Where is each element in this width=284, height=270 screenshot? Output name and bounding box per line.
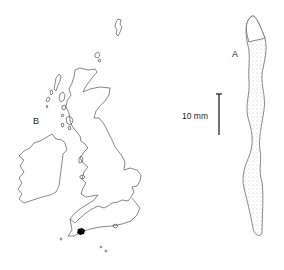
worm-specimen — [243, 16, 266, 236]
panel-b-label: B — [33, 116, 39, 126]
hebrides — [46, 74, 61, 108]
orkney-islands — [95, 52, 101, 62]
scale-bar — [216, 94, 222, 135]
worm-body — [243, 16, 266, 236]
panel-a-label: A — [232, 49, 238, 59]
worm-head-segment — [246, 16, 265, 42]
channel-island-1 — [100, 246, 102, 248]
great-britain-outline — [66, 68, 141, 223]
shetland-islands — [115, 19, 122, 36]
ireland-outline — [18, 134, 67, 203]
scilly-isles — [60, 238, 62, 240]
inner-hebrides — [59, 92, 73, 130]
british-isles-map — [18, 19, 141, 252]
scale-bar-label: 10 mm — [182, 111, 208, 121]
figure-canvas — [0, 0, 284, 270]
channel-island-2 — [105, 250, 107, 252]
